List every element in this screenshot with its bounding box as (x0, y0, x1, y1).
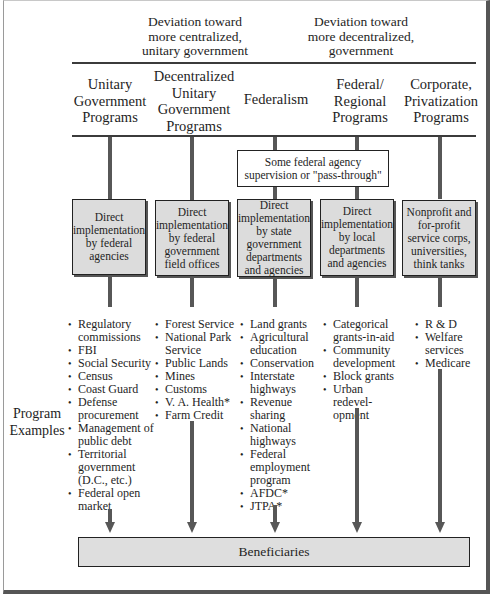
text-line: Unitary (70, 76, 150, 93)
text-line: Privatization (400, 93, 482, 110)
connector-line (355, 408, 359, 523)
text-line: Deviation toward (130, 15, 260, 30)
connector-line (273, 137, 277, 150)
column-title-unitary: Unitary Government Programs (70, 76, 150, 126)
column-title-corporate: Corporate, Privatization Programs (400, 76, 482, 126)
list-item: Management of public debt (68, 422, 154, 448)
connector-line (438, 278, 442, 307)
pass-through-text: Some federal agency supervision or "pass… (238, 156, 388, 182)
text-line: more decentralized, (296, 30, 426, 45)
examples-list-federalism: Land grants Agricultural education Conse… (240, 318, 322, 513)
arrow-down-icon (105, 522, 115, 533)
top-divider (72, 62, 476, 64)
examples-list-corporate: R & D Welfare services Medicare (415, 318, 481, 370)
text-line: Corporate, (400, 76, 482, 93)
implementation-box-local: Direct implementation by local departmen… (320, 199, 394, 276)
text-line: unitary government (130, 44, 260, 59)
list-item: Federal employment program (240, 448, 322, 487)
connector-line (273, 187, 277, 199)
connector-line (190, 137, 194, 200)
text-line: Decentralized (152, 68, 236, 85)
beneficiaries-box: Beneficiaries (78, 537, 470, 567)
implementation-box-state: Direct implementation by state governmen… (237, 199, 311, 277)
text-line: Government (70, 93, 150, 110)
list-item: Categorical grants-in-aid (323, 318, 395, 344)
text-line: Unitary (152, 85, 236, 102)
list-item: Community development (323, 344, 401, 370)
text-line: Programs (152, 118, 236, 135)
program-examples-label: Program Examples (8, 405, 66, 439)
arrow-down-icon (270, 522, 280, 533)
arrow-down-icon (352, 522, 362, 533)
box-text: Nonprofit and for-profit service corps, … (405, 206, 473, 271)
list-item: Defense procurement (68, 396, 154, 422)
text-line: Programs (320, 109, 400, 126)
text-line: government (296, 44, 426, 59)
connector-line (273, 505, 277, 523)
examples-list-field-offices: Forest Service National Park Service Pub… (155, 318, 235, 422)
list-item: Medicare (415, 357, 481, 370)
list-item: Urban redevel-opment (323, 383, 401, 422)
arrow-down-icon (187, 522, 197, 533)
box-text: Direct implementation by federal agencie… (73, 211, 145, 263)
connector-line (108, 509, 112, 523)
pass-through-box: Some federal agency supervision or "pass… (237, 150, 389, 187)
list-item: National Park Service (155, 331, 235, 357)
list-item: National highways (240, 422, 310, 448)
connector-line (190, 421, 194, 523)
column-title-decentralized-unitary: Decentralized Unitary Government Program… (152, 68, 236, 134)
list-item: Farm Credit (155, 409, 235, 422)
implementation-box-unitary: Direct implementation by federal agencie… (72, 199, 146, 275)
implementation-box-nonprofit: Nonprofit and for-profit service corps, … (402, 200, 476, 276)
connector-line (355, 137, 359, 150)
list-item: Agricultural education (240, 331, 322, 357)
beneficiaries-label: Beneficiaries (238, 544, 309, 560)
list-item: Revenue sharing (240, 396, 306, 422)
connector-line (108, 137, 112, 199)
deviation-centralized-label: Deviation toward more centralized, unita… (130, 15, 260, 59)
list-item: Interstate highways (240, 370, 310, 396)
connector-line (355, 187, 359, 199)
text-line: Federal/ (320, 76, 400, 93)
box-text: Direct implementation by state governmen… (238, 199, 310, 277)
connector-line (273, 279, 277, 307)
implementation-box-field-offices: Direct implementation by federal governm… (155, 200, 229, 276)
text-line: Deviation toward (296, 15, 426, 30)
connector-line (438, 369, 442, 523)
connector-line (438, 137, 442, 199)
list-item: Regulatory commissions (68, 318, 154, 344)
list-item: Welfare services (415, 331, 473, 357)
box-text: Direct implementation by local departmen… (321, 205, 393, 270)
examples-list-unitary: Regulatory commissions FBI Social Securi… (68, 318, 154, 513)
examples-list-federal-regional: Categorical grants-in-aid Community deve… (323, 318, 403, 422)
column-title-federal-regional: Federal/ Regional Programs (320, 76, 400, 126)
text-line: Programs (70, 109, 150, 126)
list-item: Territorial government (D.C., etc.) (68, 448, 136, 487)
text-line: Federalism (236, 91, 316, 108)
list-item: Federal open market (68, 487, 144, 513)
text-line: more centralized, (130, 30, 260, 45)
list-item: JTPA* (240, 500, 322, 513)
deviation-decentralized-label: Deviation toward more decentralized, gov… (296, 15, 426, 59)
column-title-federalism: Federalism (236, 91, 316, 108)
text-line: Regional (320, 93, 400, 110)
box-text: Direct implementation by federal governm… (156, 206, 228, 271)
connector-line (355, 278, 359, 307)
text-line: Programs (400, 109, 482, 126)
connector-line (190, 277, 194, 307)
arrow-down-icon (435, 522, 445, 533)
text-line: Government (152, 101, 236, 118)
connector-line (108, 277, 112, 307)
